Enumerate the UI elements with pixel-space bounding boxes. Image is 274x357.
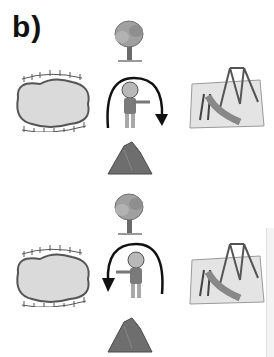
rock-pile-icon (106, 316, 154, 354)
rock-pile-icon (106, 140, 154, 176)
tree-icon (112, 190, 146, 236)
page-edge (266, 228, 274, 357)
fenced-pond-icon (10, 70, 94, 132)
tree-icon (112, 17, 146, 63)
exercise-label: b) (12, 10, 42, 44)
playground-icon (186, 64, 266, 134)
fenced-pond-icon (10, 245, 94, 307)
playground-icon (186, 240, 266, 310)
boy-pointing-right-icon (118, 80, 156, 132)
boy-pointing-left-icon (112, 250, 150, 302)
